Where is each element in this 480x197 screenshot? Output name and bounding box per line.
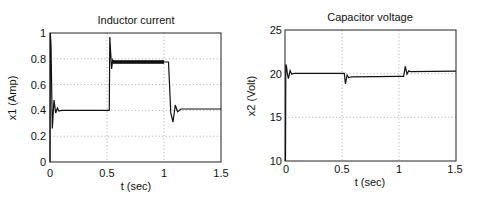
x-tick: 1.5 bbox=[213, 167, 228, 179]
x-tick: 0.5 bbox=[334, 163, 349, 175]
x-tick: 1.5 bbox=[447, 163, 462, 175]
x-tick: 1 bbox=[161, 167, 167, 179]
x-tick: 1 bbox=[396, 163, 402, 175]
figure: Inductor current 0 0.2 0.4 0.6 0.8 1 0 0… bbox=[0, 0, 480, 197]
y-tick: 0 bbox=[40, 156, 46, 168]
y-tick: 1 bbox=[40, 27, 46, 39]
y-tick: 0.6 bbox=[31, 79, 46, 91]
series-x2 bbox=[286, 65, 457, 161]
chart-title: Inductor current bbox=[97, 14, 174, 26]
chart-inductor-current: Inductor current 0 0.2 0.4 0.6 0.8 1 0 0… bbox=[6, 14, 229, 192]
x-axis-label: t (sec) bbox=[121, 180, 152, 192]
y-tick: 20 bbox=[270, 68, 282, 80]
y-tick-labels: 10 15 20 25 bbox=[270, 24, 282, 167]
y-tick-labels: 0 0.2 0.4 0.6 0.8 1 bbox=[31, 27, 46, 168]
plot-area bbox=[285, 30, 456, 161]
y-axis-label: x1 (Amp) bbox=[6, 76, 18, 121]
y-tick: 0.8 bbox=[31, 53, 46, 65]
y-axis-label: x2 (Volt) bbox=[245, 76, 257, 116]
ripple-band bbox=[113, 60, 164, 64]
plot-area bbox=[50, 33, 221, 162]
grid-lines bbox=[50, 33, 221, 162]
y-tick: 15 bbox=[270, 111, 282, 123]
chart-capacitor-voltage: Capacitor voltage 10 15 20 25 0 0.5 1 1.… bbox=[245, 11, 463, 188]
series-x1 bbox=[50, 33, 221, 162]
y-tick: 25 bbox=[270, 24, 282, 36]
x-tick-labels: 0 0.5 1 1.5 bbox=[283, 163, 463, 175]
y-tick: 0.2 bbox=[31, 130, 46, 142]
chart-title: Capacitor voltage bbox=[327, 11, 413, 23]
y-tick: 0.4 bbox=[31, 104, 46, 116]
x-axis-label: t (sec) bbox=[355, 176, 386, 188]
x-tick: 0 bbox=[47, 167, 53, 179]
grid-lines bbox=[285, 30, 456, 161]
y-tick: 10 bbox=[270, 155, 282, 167]
x-tick: 0.5 bbox=[99, 167, 114, 179]
x-tick-labels: 0 0.5 1 1.5 bbox=[47, 167, 229, 179]
x-tick: 0 bbox=[283, 163, 289, 175]
